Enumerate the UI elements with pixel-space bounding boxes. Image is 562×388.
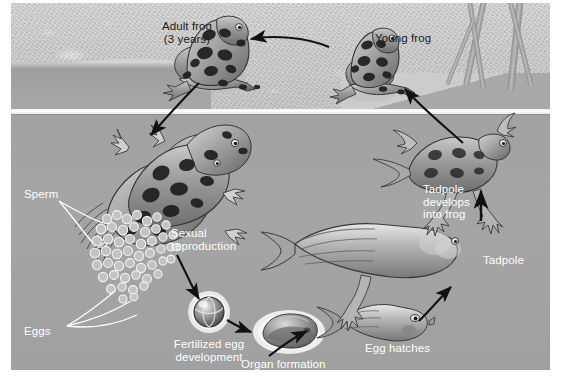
label-young-frog: Young frog [375, 32, 431, 45]
label-eggs: Eggs [24, 325, 51, 338]
label-sexual-reproduction: Sexual reproduction [171, 227, 236, 252]
label-adult-frog: Adult frog (3 years) [147, 20, 227, 45]
pond-water-background [11, 115, 550, 370]
label-tadpole-develops-into-frog: Tadpole develops into frog [423, 183, 470, 221]
label-egg-hatches: Egg hatches [365, 342, 430, 355]
land-shore-background [11, 3, 550, 111]
frog-life-cycle-figure: Adult frog (3 years) Young frog Sperm Eg… [11, 3, 550, 370]
shore-edge-right [341, 73, 550, 113]
label-tadpole: Tadpole [483, 254, 524, 267]
label-organ-formation: Organ formation [241, 358, 326, 370]
shallow-water-strip [11, 63, 211, 111]
label-sperm: Sperm [24, 188, 58, 201]
screenshot-root: Adult frog (3 years) Young frog Sperm Eg… [0, 0, 562, 388]
